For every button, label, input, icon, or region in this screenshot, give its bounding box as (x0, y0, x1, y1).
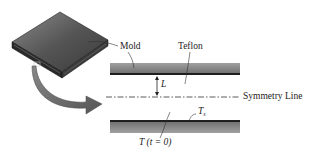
length-label: L (161, 80, 166, 90)
bottom-strip (110, 120, 240, 133)
teflon-label: Teflon (178, 42, 203, 52)
top-strip (110, 63, 240, 75)
length-dimension-arrow (155, 76, 159, 96)
ts-subscript: s (203, 111, 205, 117)
symmetry-line-label: Symmetry Line (243, 92, 302, 102)
initial-temperature-label: T (t = 0) (139, 138, 171, 148)
ts-leader (189, 114, 196, 121)
mold-plate-3d (12, 12, 108, 78)
mold-label: Mold (120, 42, 141, 52)
surface-temperature-label: Ts (198, 107, 206, 117)
